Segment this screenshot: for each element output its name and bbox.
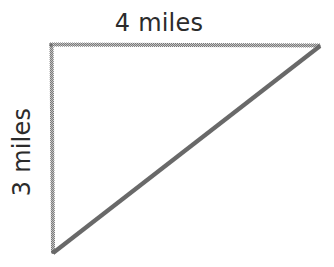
vertex-top-right	[317, 44, 320, 47]
top-edge-length-label: 4 miles	[0, 11, 334, 35]
triangle-shape	[0, 0, 334, 267]
vertex-top-left	[49, 43, 52, 46]
triangle-top-edge-tone	[50, 45, 320, 46]
triangle-left-edge-tone	[52, 43, 54, 253]
vertex-bottom-left	[51, 250, 55, 254]
triangle-figure: 4 miles 3 miles	[0, 0, 334, 267]
triangle-hypotenuse	[53, 46, 320, 253]
left-edge-length-label: 3 miles	[10, 92, 34, 212]
